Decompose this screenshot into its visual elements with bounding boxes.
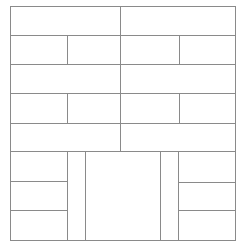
- grid-cell-r1-right: [120, 6, 236, 36]
- grid-cell-r2-d: [179, 35, 236, 65]
- grid-cell-r5-right: [120, 123, 236, 152]
- grid-cell-b-left-3: [10, 210, 68, 241]
- grid-cell-b-right-2: [178, 182, 236, 211]
- grid-cell-r5-left: [10, 123, 121, 152]
- grid-cell-b-right-narrow: [160, 151, 179, 241]
- grid-cell-r3-right: [120, 64, 236, 94]
- grid-cell-r2-b: [67, 35, 121, 65]
- grid-cell-r4-c: [120, 93, 180, 124]
- grid-cell-r1-left: [10, 6, 121, 36]
- grid-cell-b-left-narrow: [67, 151, 86, 241]
- grid-cell-b-left-1: [10, 151, 68, 182]
- grid-cell-r4-d: [179, 93, 236, 124]
- grid-cell-r4-b: [67, 93, 121, 124]
- grid-cell-r3-left: [10, 64, 121, 94]
- grid-cell-b-center: [85, 151, 161, 241]
- grid-cell-b-right-1: [178, 151, 236, 183]
- grid-cell-b-right-3: [178, 210, 236, 241]
- grid-cell-r4-a: [10, 93, 68, 124]
- grid-cell-r2-c: [120, 35, 180, 65]
- grid-cell-b-left-2: [10, 181, 68, 211]
- grid-cell-r2-a: [10, 35, 68, 65]
